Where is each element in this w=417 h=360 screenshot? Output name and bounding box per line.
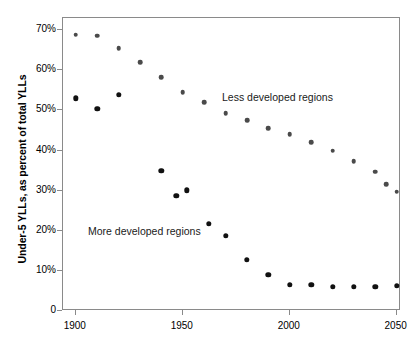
data-point [244, 257, 249, 262]
data-point [266, 272, 271, 277]
data-point [373, 169, 378, 174]
y-tick-label: 30% [36, 185, 56, 195]
data-point [202, 100, 207, 105]
data-point [373, 284, 378, 289]
data-point [394, 283, 399, 288]
annotation-less-developed-regions: Less developed regions [222, 91, 333, 103]
x-tick [396, 310, 397, 315]
annotation-more-developed-regions: More developed regions [88, 225, 201, 237]
data-point [95, 33, 100, 38]
data-point [287, 282, 292, 287]
y-tick [57, 310, 62, 311]
data-point [223, 233, 228, 238]
data-point [116, 92, 121, 97]
y-tick-label: 10% [36, 265, 56, 275]
data-point [74, 33, 79, 38]
x-tick-label: 2050 [366, 320, 417, 331]
data-point [159, 168, 164, 173]
data-point [116, 46, 121, 51]
data-point [384, 182, 389, 187]
x-tick-label: 1900 [45, 320, 105, 331]
figure-container: Under-5 YLLs, as percent of total YLLs 7… [0, 0, 417, 360]
data-point [351, 284, 356, 289]
data-point [181, 90, 186, 95]
y-tick-label: 60% [36, 64, 56, 74]
x-tick-label: 1950 [152, 320, 212, 331]
data-point [288, 132, 293, 137]
data-point [184, 187, 189, 192]
y-axis-title: Under-5 YLLs, as percent of total YLLs [16, 19, 28, 319]
data-point [308, 282, 313, 287]
data-point [174, 193, 179, 198]
data-point [266, 126, 271, 131]
plot-area [62, 17, 400, 310]
data-point [352, 159, 357, 164]
y-tick-label: 20% [36, 225, 56, 235]
data-point [94, 106, 99, 111]
data-point [138, 60, 143, 65]
y-tick-label: 40% [36, 145, 56, 155]
data-point [245, 118, 250, 123]
data-point [73, 96, 78, 101]
x-tick [289, 310, 290, 315]
x-tick [75, 310, 76, 315]
data-point [330, 148, 335, 153]
y-tick-label: 0 [50, 305, 56, 315]
x-tick-label: 2000 [259, 320, 319, 331]
data-point [159, 75, 164, 80]
data-point [309, 140, 314, 145]
x-tick [182, 310, 183, 315]
y-tick-label: 70% [36, 24, 56, 34]
data-point [330, 284, 335, 289]
data-point [394, 190, 399, 195]
data-point [206, 221, 211, 226]
y-tick-label: 50% [36, 104, 56, 114]
data-point [223, 111, 228, 116]
